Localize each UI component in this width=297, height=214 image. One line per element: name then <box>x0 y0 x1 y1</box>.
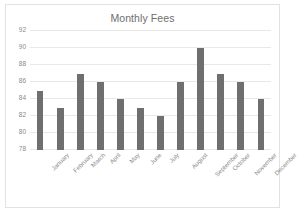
x-axis-tick-label: July <box>168 152 180 164</box>
bar <box>77 74 84 151</box>
chart-title: Monthly Fees <box>6 12 279 24</box>
y-axis-tick-label: 80 <box>19 129 26 136</box>
x-axis-tick-label: August <box>191 152 209 170</box>
y-axis-tick-label: 84 <box>19 95 26 102</box>
bar <box>197 48 204 150</box>
y-axis-tick-label: 90 <box>19 44 26 51</box>
x-axis-tick-label: June <box>149 152 163 166</box>
bar <box>217 74 224 151</box>
x-axis-tick-label: May <box>128 152 141 165</box>
x-axis-tick-label: January <box>51 152 71 172</box>
y-axis-tick-label: 82 <box>19 112 26 119</box>
bar <box>117 99 124 150</box>
bar <box>258 99 265 150</box>
bar <box>237 82 244 150</box>
bar <box>137 108 144 151</box>
x-axis-tick-label: April <box>108 152 121 165</box>
y-axis-tick-label: 92 <box>19 27 26 34</box>
y-axis-tick-label: 78 <box>19 146 26 153</box>
bars-layer <box>30 31 271 150</box>
y-axis-tick-label: 86 <box>19 78 26 85</box>
bar <box>177 82 184 150</box>
bar <box>37 91 44 151</box>
bar <box>157 116 164 150</box>
bar <box>97 82 104 150</box>
y-axis-tick-label: 88 <box>19 61 26 68</box>
bar <box>57 108 64 151</box>
x-axis-labels: JanuaryFebruaryMarchAprilMayJuneJulyAugu… <box>30 152 271 207</box>
chart-container: Monthly Fees 7880828486889092 JanuaryFeb… <box>5 4 280 208</box>
plot-area: 7880828486889092 <box>30 31 271 150</box>
